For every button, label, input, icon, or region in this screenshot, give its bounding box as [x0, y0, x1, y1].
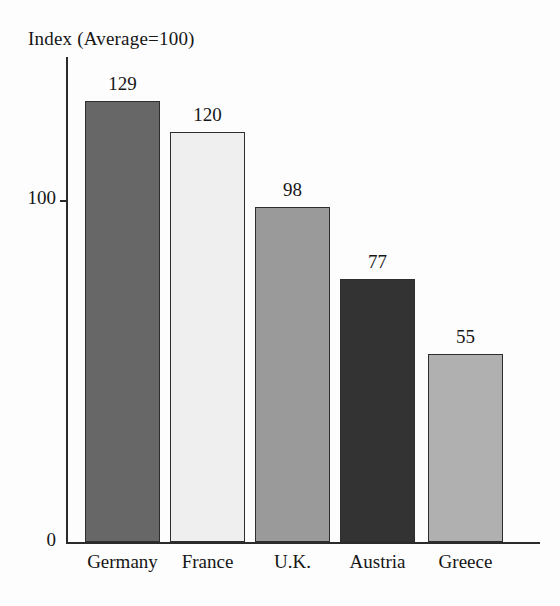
bar-value-label: 77 — [340, 251, 415, 273]
plot-area: 129Germany120France98U.K.77Austria55Gree… — [0, 0, 560, 606]
bar-value-label: 129 — [85, 73, 160, 95]
bar[interactable] — [428, 354, 503, 542]
bar-value-label: 120 — [170, 104, 245, 126]
bar[interactable] — [255, 207, 330, 542]
x-axis-category-label: Greece — [414, 551, 517, 573]
bar-chart: Index (Average=100) 0100 129Germany120Fr… — [0, 0, 560, 606]
bar[interactable] — [170, 132, 245, 542]
bar-value-label: 98 — [255, 179, 330, 201]
bar[interactable] — [340, 279, 415, 542]
bar-value-label: 55 — [428, 326, 503, 348]
bar[interactable] — [85, 101, 160, 542]
